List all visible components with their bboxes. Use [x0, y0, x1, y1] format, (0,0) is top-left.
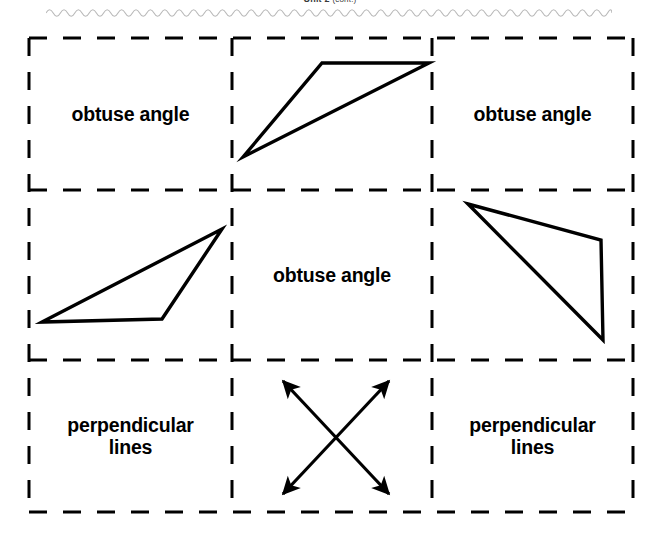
flashcard-page: Unit 2 (cont.) — [0, 0, 660, 541]
dashed-grid — [0, 0, 660, 541]
